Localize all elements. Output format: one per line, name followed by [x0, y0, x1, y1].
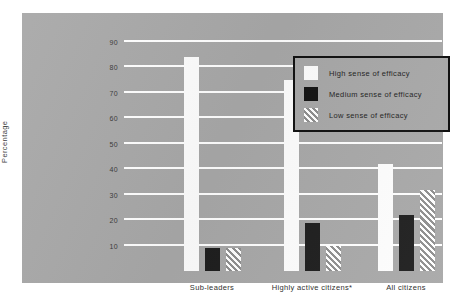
legend-label: High sense of efficacy: [329, 69, 410, 78]
x-tick-label: All citizens: [386, 283, 426, 292]
solid-white-swatch: [304, 66, 318, 80]
diagonal-hatch-swatch: [304, 108, 318, 122]
x-tick-label: Highly active citizens*: [272, 283, 353, 292]
y-tick-label: 10: [92, 242, 118, 249]
bar-low: [420, 190, 435, 271]
y-tick-label: 20: [92, 217, 118, 224]
y-tick-label: 90: [92, 39, 118, 46]
chart-panel: Percentage 908070605040302010 Sub-leader…: [22, 13, 443, 283]
y-tick-label: 30: [92, 191, 118, 198]
legend-item: High sense of efficacy: [304, 66, 410, 80]
y-axis-ticks: 908070605040302010: [92, 42, 118, 271]
chart-figure: Percentage 908070605040302010 Sub-leader…: [0, 0, 467, 296]
bar-high: [378, 164, 393, 271]
legend-label: Low sense of efficacy: [329, 111, 408, 120]
y-tick-label: 80: [92, 64, 118, 71]
y-tick-label: 70: [92, 89, 118, 96]
y-tick-label: 40: [92, 166, 118, 173]
solid-black-swatch: [304, 87, 318, 101]
x-tick-label: Sub-leaders: [190, 283, 234, 292]
chart-legend: High sense of efficacyMedium sense of ef…: [293, 56, 450, 132]
legend-item: Medium sense of efficacy: [304, 87, 422, 101]
bar-medium: [399, 215, 414, 271]
legend-item: Low sense of efficacy: [304, 108, 408, 122]
y-axis-title: Percentage: [0, 121, 9, 163]
legend-label: Medium sense of efficacy: [329, 90, 422, 99]
y-tick-label: 50: [92, 140, 118, 147]
y-tick-label: 60: [92, 115, 118, 122]
